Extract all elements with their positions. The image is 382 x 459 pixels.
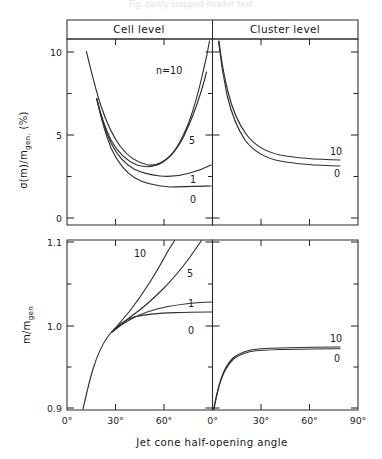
curve-lower-cell-n1 (112, 302, 212, 332)
lower-ylabel-group: m/mgen (21, 306, 35, 344)
upper-ylabel-main: σ(m)/m (18, 150, 29, 189)
lower-ylabel-main: m/m (21, 320, 32, 344)
lower-axes (67, 240, 358, 410)
curve-label-lower-cell-n10: 10 (134, 248, 146, 259)
upper-left-curves (86, 41, 211, 187)
curve-label-cell-n10: n=10 (156, 65, 182, 76)
xaxis-label: Jet cone half-opening angle (135, 437, 288, 448)
xtick-left-30: 30° (107, 415, 124, 426)
curve-upper-cell-n10 (86, 41, 209, 165)
lower-ytick-1p1: 1.1 (47, 237, 62, 248)
panel-title-cell: Cell level (113, 23, 164, 35)
lower-right-curves (214, 347, 340, 410)
curve-label-cell-n0: 0 (190, 194, 196, 205)
xtick-right-0: 0° (207, 415, 218, 426)
xtick-right-30: 30° (253, 415, 270, 426)
figure-container: Fig. partly cropped header text Cell lev… (0, 0, 382, 459)
curve-label-cell-n5: 5 (189, 135, 195, 146)
cropped-header-text: Fig. partly cropped header text (0, 0, 382, 11)
curve-upper-cluster-n0 (219, 42, 341, 167)
panel-title-cluster: Cluster level (250, 23, 320, 35)
curve-label-lower-cluster-n0: 0 (334, 353, 340, 364)
upper-axes (67, 39, 358, 225)
svg-text:σ(m)/mgen. (%): σ(m)/mgen. (%) (18, 111, 32, 189)
xtick-right-90: 90° (350, 415, 367, 426)
upper-ytick-0: 0 (56, 213, 62, 224)
upper-right-curves (219, 41, 341, 166)
upper-ylabel-unit: (%) (18, 111, 29, 129)
curve-upper-cluster-n10 (219, 41, 340, 160)
upper-ytick-5: 5 (56, 130, 62, 141)
upper-ylabel-group: σ(m)/mgen. (%) (18, 111, 32, 189)
curve-label-lower-cluster-n10: 10 (330, 333, 342, 344)
curve-label-cluster-n0: 0 (334, 168, 340, 179)
xtick-left-60: 60° (156, 415, 173, 426)
xtick-left-0: 0° (62, 415, 73, 426)
svg-text:m/mgen: m/mgen (21, 306, 35, 344)
curve-lower-cluster-n10 (214, 347, 340, 409)
xtick-right-60: 60° (301, 415, 318, 426)
curve-label-cluster-n10: 10 (330, 146, 342, 157)
upper-ylabel-sub: gen. (23, 133, 32, 150)
lower-ytick-1p0: 1.0 (47, 321, 62, 332)
physics-plot-svg: Cell level Cluster level (0, 0, 382, 459)
upper-ytick-10: 10 (50, 47, 62, 58)
curve-label-lower-cell-n5: 5 (187, 268, 193, 279)
lower-ylabel-sub: gen (26, 306, 35, 320)
lower-ytick-0p9: 0.9 (47, 403, 62, 414)
curve-lower-cell-n5 (112, 241, 202, 333)
curve-label-lower-cell-n0: 0 (188, 325, 194, 336)
curve-label-lower-cell-n1: 1 (188, 298, 194, 309)
curve-label-cell-n1: 1 (190, 174, 196, 185)
